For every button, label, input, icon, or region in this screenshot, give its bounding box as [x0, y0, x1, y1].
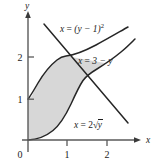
y-tick-label-2: 2	[18, 52, 23, 63]
parabola-lhs: x	[60, 24, 64, 34]
label-parabola-equation: x = (y − 1)2	[60, 25, 104, 35]
label-line-equation: x = 3 − y	[78, 57, 112, 67]
sqrt-equals: =	[81, 120, 86, 130]
parabola-equals: =	[67, 24, 72, 34]
x-tick-label-2: 2	[105, 149, 110, 160]
y-tick-label-1: 1	[18, 94, 23, 105]
x-axis-arrow	[134, 137, 141, 143]
radical-icon: √y	[93, 120, 103, 130]
x-tick-label-1: 1	[65, 149, 70, 160]
line-lhs: x	[78, 56, 82, 66]
parabola-exponent: 2	[101, 22, 104, 29]
origin-label: 0	[18, 149, 23, 160]
parabola-rhs: (y − 1)	[74, 24, 100, 34]
line-rhs: 3 − y	[92, 56, 112, 66]
y-axis-label: y	[24, 1, 30, 11]
sqrt-lhs: x	[74, 120, 78, 130]
line-equals: =	[85, 56, 90, 66]
label-sqrt-equation: x = 2√y	[74, 121, 103, 131]
y-axis-arrow	[25, 11, 31, 18]
math-figure: 1 2 1 2 0 y x x = (y − 1)2 x = 3 − y x =…	[0, 0, 154, 164]
sqrt-radicand: y	[98, 119, 103, 130]
x-axis-label: x	[145, 135, 151, 145]
